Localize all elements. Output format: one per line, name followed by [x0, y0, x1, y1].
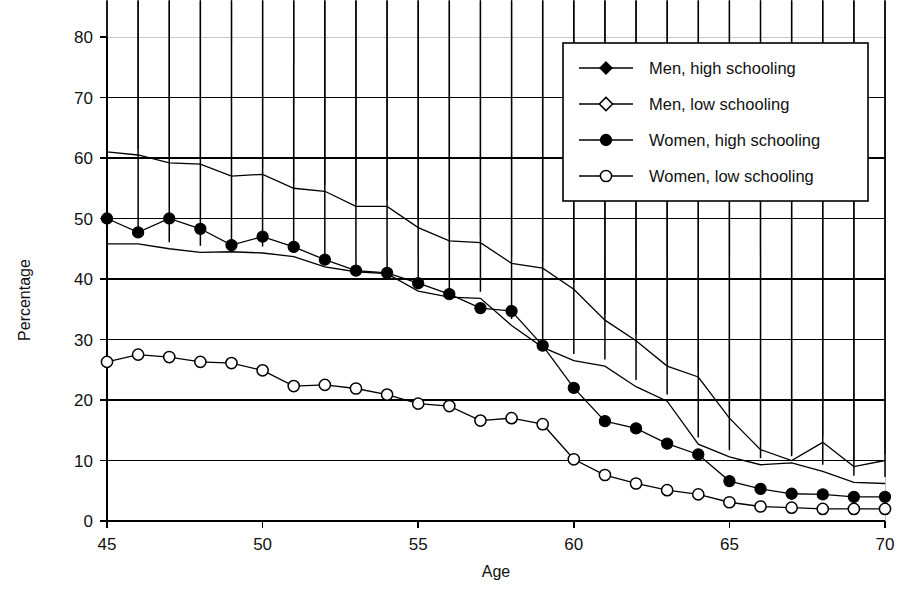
- chart-container: 01020304050607080 455055606570 Percentag…: [0, 0, 915, 604]
- data-point-3-12: [475, 415, 486, 426]
- data-point-2-5: [257, 231, 268, 242]
- data-point-2-17: [630, 423, 641, 434]
- data-point-3-10: [413, 398, 424, 409]
- data-point-2-18: [662, 438, 673, 449]
- data-point-2-12: [475, 302, 486, 313]
- data-point-2-11: [444, 289, 455, 300]
- data-point-3-3: [195, 356, 206, 367]
- data-point-3-25: [879, 503, 890, 514]
- y-tick-label-50: 50: [74, 210, 93, 229]
- data-point-2-21: [755, 483, 766, 494]
- legend-marker-open-circle: [600, 170, 611, 181]
- legend-label-3: Women, low schooling: [649, 167, 814, 185]
- data-point-3-1: [133, 349, 144, 360]
- data-point-3-13: [506, 413, 517, 424]
- x-tick-label-55: 55: [409, 535, 428, 554]
- y-tick-label-30: 30: [74, 331, 93, 350]
- legend-label-0: Men, high schooling: [649, 59, 796, 77]
- data-point-2-1: [133, 227, 144, 238]
- y-tick-label-10: 10: [74, 452, 93, 471]
- data-point-2-10: [413, 278, 424, 289]
- x-tick-label-50: 50: [253, 535, 272, 554]
- data-point-3-21: [755, 501, 766, 512]
- data-point-2-0: [101, 213, 112, 224]
- data-point-2-13: [506, 305, 517, 316]
- data-point-3-6: [288, 380, 299, 391]
- data-point-2-14: [537, 340, 548, 351]
- data-point-2-23: [817, 489, 828, 500]
- data-point-3-11: [444, 400, 455, 411]
- data-point-2-3: [195, 223, 206, 234]
- data-point-3-0: [101, 356, 112, 367]
- y-tick-label-20: 20: [74, 391, 93, 410]
- data-point-3-22: [786, 502, 797, 513]
- chart-legend: Men, high schoolingMen, low schoolingWom…: [563, 43, 868, 201]
- data-point-2-9: [381, 267, 392, 278]
- data-point-3-7: [319, 379, 330, 390]
- data-point-2-16: [599, 416, 610, 427]
- legend-marker-filled-circle: [600, 134, 611, 145]
- data-point-3-16: [599, 469, 610, 480]
- data-point-2-20: [724, 475, 735, 486]
- data-point-2-8: [350, 265, 361, 276]
- data-point-3-9: [381, 389, 392, 400]
- data-point-2-19: [693, 449, 704, 460]
- data-point-2-24: [848, 491, 859, 502]
- y-tick-label-0: 0: [84, 512, 93, 531]
- y-tick-label-40: 40: [74, 270, 93, 289]
- data-point-2-7: [319, 254, 330, 265]
- data-point-2-4: [226, 240, 237, 251]
- data-point-3-23: [817, 503, 828, 514]
- x-tick-label-70: 70: [876, 535, 895, 554]
- legend-label-2: Women, high schooling: [649, 131, 820, 149]
- data-point-2-2: [164, 213, 175, 224]
- y-tick-labels: 01020304050607080: [74, 28, 93, 531]
- data-point-3-19: [693, 489, 704, 500]
- data-point-3-24: [848, 503, 859, 514]
- data-point-2-25: [879, 491, 890, 502]
- data-point-3-18: [662, 485, 673, 496]
- x-tick-label-45: 45: [98, 535, 117, 554]
- x-tick-label-65: 65: [720, 535, 739, 554]
- y-tick-label-80: 80: [74, 28, 93, 47]
- x-tick-label-60: 60: [564, 535, 583, 554]
- data-point-3-14: [537, 419, 548, 430]
- legend-label-1: Men, low schooling: [649, 95, 789, 113]
- data-point-2-22: [786, 488, 797, 499]
- y-tick-label-60: 60: [74, 149, 93, 168]
- line-chart: 01020304050607080 455055606570 Percentag…: [0, 0, 915, 604]
- data-point-3-15: [568, 454, 579, 465]
- data-point-3-4: [226, 357, 237, 368]
- data-point-3-5: [257, 365, 268, 376]
- data-point-3-20: [724, 497, 735, 508]
- data-point-2-6: [288, 241, 299, 252]
- x-axis-title: Age: [482, 563, 511, 580]
- data-point-3-17: [630, 478, 641, 489]
- data-point-2-15: [568, 382, 579, 393]
- y-axis-title: Percentage: [16, 259, 33, 341]
- data-point-3-2: [164, 351, 175, 362]
- data-point-3-8: [350, 383, 361, 394]
- y-tick-label-70: 70: [74, 89, 93, 108]
